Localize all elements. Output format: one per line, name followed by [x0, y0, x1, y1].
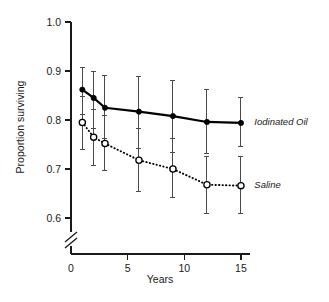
- y-tick-label: 0.9: [46, 65, 61, 77]
- data-point: [238, 183, 244, 189]
- x-axis-title: Years: [147, 273, 173, 285]
- data-point: [204, 119, 209, 124]
- data-point: [80, 87, 85, 92]
- series-label-saline: Saline: [254, 179, 280, 190]
- y-tick-label: 1.0: [46, 16, 61, 28]
- x-tick-label: 5: [125, 262, 131, 274]
- data-point: [136, 157, 142, 163]
- chart-figure: 1.00.90.80.70.6 Proportion surviving 051…: [0, 0, 329, 302]
- marker-group-iodinated-oil: [80, 87, 244, 126]
- x-tick-label: 10: [178, 262, 190, 274]
- data-point: [102, 105, 107, 110]
- y-tick-label: 0.6: [46, 212, 61, 224]
- data-point: [170, 113, 175, 118]
- data-point: [102, 140, 108, 146]
- data-point: [91, 95, 96, 100]
- data-point: [204, 182, 210, 188]
- series-line-saline: [82, 122, 241, 185]
- data-point: [238, 120, 243, 125]
- data-point: [79, 119, 85, 125]
- series-lines: [82, 90, 241, 186]
- y-tick-label: 0.8: [46, 114, 61, 126]
- y-axis-title: Proportion surviving: [14, 80, 26, 173]
- y-tick-label: 0.7: [46, 163, 61, 175]
- series-label-iodinated-oil: Iodinated Oil: [254, 116, 308, 127]
- data-point: [170, 166, 176, 172]
- x-tick-label: 0: [68, 262, 74, 274]
- y-tick-marks: [65, 22, 71, 218]
- x-tick-marks: [128, 254, 241, 260]
- marker-group-saline: [79, 119, 244, 188]
- series-markers: [79, 87, 244, 189]
- data-point: [91, 134, 97, 140]
- x-axis: 051015 Years: [68, 254, 250, 285]
- y-axis: 1.00.90.80.70.6 Proportion surviving: [14, 16, 77, 254]
- y-axis-break-marker: [65, 232, 77, 248]
- data-point: [136, 109, 141, 114]
- y-tick-labels: 1.00.90.80.70.6: [46, 16, 61, 224]
- series-annotations: Iodinated OilSaline: [254, 116, 308, 190]
- x-tick-label: 15: [235, 262, 247, 274]
- survival-curve-chart: 1.00.90.80.70.6 Proportion surviving 051…: [0, 0, 329, 302]
